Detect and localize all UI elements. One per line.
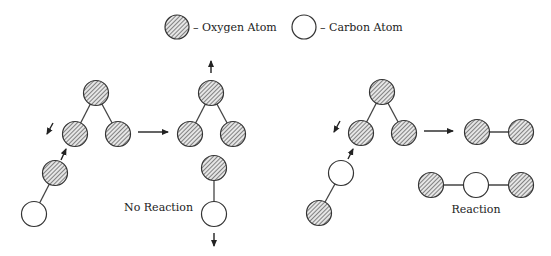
ozone-right-oxygen-icon: [392, 121, 417, 146]
ozone-right-oxygen-icon: [221, 122, 246, 147]
reaction-label: Reaction: [451, 203, 500, 216]
ozone-right-oxygen-icon: [106, 122, 131, 147]
legend-carbon-icon: [292, 15, 316, 39]
ozone-left-oxygen-icon: [178, 122, 203, 147]
motion-arrow-icon: [47, 123, 53, 134]
incoming-oxygen-icon: [307, 201, 332, 226]
co2-left-oxygen-icon: [419, 173, 444, 198]
co2-carbon-icon: [464, 173, 489, 198]
incoming-carbon-icon: [329, 161, 354, 186]
legend-oxygen-icon: [165, 15, 189, 39]
approach-arrow-icon: [348, 149, 353, 159]
o2-oxygen-icon: [465, 120, 490, 145]
no-reaction-label: No Reaction: [124, 201, 193, 214]
approach-arrow-icon: [61, 149, 66, 160]
legend-oxygen-label: – Oxygen Atom: [193, 21, 277, 34]
motion-arrow-icon: [334, 121, 340, 132]
panel-1-reactants: [22, 81, 131, 227]
legend: – Oxygen Atom – Carbon Atom: [165, 15, 403, 39]
panel-2-reactants: [307, 80, 417, 226]
ozone-top-oxygen-icon: [199, 81, 224, 106]
legend-carbon-label: – Carbon Atom: [320, 21, 403, 34]
bounced-carbon-icon: [202, 202, 227, 227]
panel-1-products: No Reaction: [124, 61, 245, 246]
o2-oxygen-icon: [509, 120, 534, 145]
co2-right-oxygen-icon: [509, 173, 534, 198]
incoming-oxygen-icon: [43, 161, 68, 186]
incoming-carbon-icon: [22, 202, 47, 227]
ozone-left-oxygen-icon: [63, 122, 88, 147]
ozone-left-oxygen-icon: [349, 121, 374, 146]
reaction-diagram: – Oxygen Atom – Carbon Atom No Reaction: [0, 0, 551, 256]
ozone-top-oxygen-icon: [370, 80, 395, 105]
ozone-top-oxygen-icon: [84, 81, 109, 106]
bounced-oxygen-icon: [202, 156, 227, 181]
panel-2-products: Reaction: [419, 120, 534, 217]
